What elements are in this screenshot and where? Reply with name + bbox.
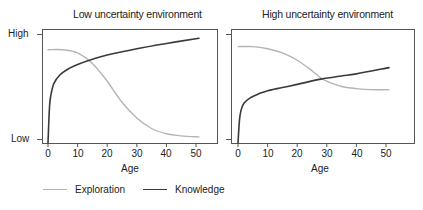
panel-high-uncertainty — [226, 30, 415, 148]
series-line-knowledge — [238, 68, 389, 143]
x-tick-label: 30 — [321, 148, 332, 159]
series-line-knowledge — [48, 38, 199, 143]
legend-item-knowledge: Knowledge — [143, 184, 224, 195]
legend-swatch-knowledge — [143, 189, 167, 190]
x-tick-label: 20 — [101, 148, 112, 159]
x-tick-label: 0 — [235, 148, 241, 159]
x-axis-label-high: Age — [311, 163, 329, 174]
chart-legend: Exploration Knowledge — [43, 184, 243, 195]
series-line-exploration — [48, 49, 199, 136]
legend-item-exploration: Exploration — [43, 184, 125, 195]
x-tick-label: 50 — [380, 148, 391, 159]
legend-swatch-exploration — [43, 189, 67, 190]
x-tick-label: 20 — [291, 148, 302, 159]
x-tick-label: 40 — [351, 148, 362, 159]
legend-label-exploration: Exploration — [75, 184, 125, 195]
x-axis-label-low: Age — [121, 163, 139, 174]
series-line-exploration — [238, 46, 389, 89]
x-tick-label: 50 — [190, 148, 201, 159]
x-tick-label: 10 — [262, 148, 273, 159]
chart-canvas — [0, 0, 423, 210]
x-tick-label: 30 — [131, 148, 142, 159]
x-tick-label: 0 — [45, 148, 51, 159]
x-tick-label: 40 — [160, 148, 171, 159]
plot-frame — [43, 30, 218, 144]
panel-low-uncertainty — [37, 30, 218, 148]
x-tick-label: 10 — [72, 148, 83, 159]
legend-label-knowledge: Knowledge — [175, 184, 224, 195]
